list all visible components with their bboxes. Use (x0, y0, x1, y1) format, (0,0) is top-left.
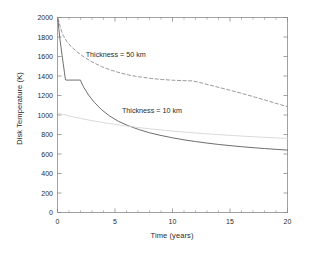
svg-text:1200: 1200 (37, 92, 53, 99)
curve-annotations: Thickness = 50 kmThickness = 10 km (86, 50, 182, 116)
series-line (58, 18, 287, 106)
chart-svg: 05101520 0200400600800100012001400160018… (0, 0, 322, 258)
series-line (58, 20, 287, 150)
svg-text:5: 5 (113, 218, 117, 225)
x-axis-label: Time (years) (57, 231, 287, 240)
svg-text:1000: 1000 (37, 112, 53, 119)
svg-text:20: 20 (284, 218, 292, 225)
svg-text:2000: 2000 (37, 14, 53, 21)
svg-text:600: 600 (41, 151, 53, 158)
svg-text:1800: 1800 (37, 34, 53, 41)
figure-container: 05101520 0200400600800100012001400160018… (0, 0, 322, 258)
x-tick-labels: 05101520 (56, 218, 292, 225)
y-axis-label: Disk Temperature (K) (15, 54, 24, 164)
svg-text:1400: 1400 (37, 73, 53, 80)
series-line (58, 113, 287, 138)
svg-text:0: 0 (56, 218, 60, 225)
data-series-group (58, 18, 287, 150)
svg-text:1600: 1600 (37, 53, 53, 60)
annotation-label: Thickness = 50 km (86, 50, 146, 59)
svg-text:10: 10 (169, 218, 177, 225)
svg-text:400: 400 (41, 170, 53, 177)
svg-text:15: 15 (226, 218, 234, 225)
y-tick-labels: 0200400600800100012001400160018002000 (37, 14, 53, 216)
annotation-label: Thickness = 10 km (122, 106, 182, 115)
svg-text:0: 0 (49, 209, 53, 216)
svg-text:800: 800 (41, 131, 53, 138)
svg-text:200: 200 (41, 190, 53, 197)
